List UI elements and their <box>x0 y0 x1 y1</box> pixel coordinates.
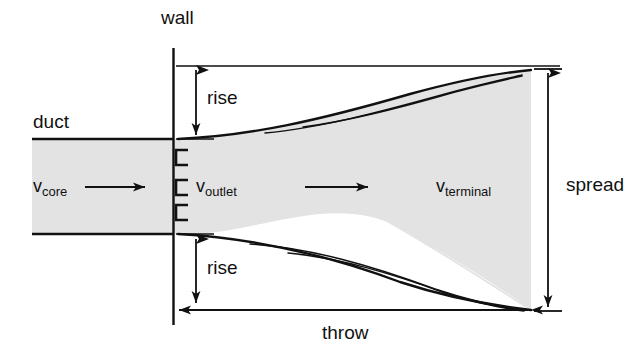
label-v-core: vcore <box>33 177 67 195</box>
v-core-symbol: v <box>33 176 42 196</box>
label-wall: wall <box>161 8 194 27</box>
label-rise-top: rise <box>207 88 238 107</box>
v-outlet-symbol: v <box>196 176 205 196</box>
label-throw: throw <box>322 323 368 342</box>
label-v-outlet: voutlet <box>196 177 237 195</box>
label-duct: duct <box>33 112 69 131</box>
diagram-canvas: wall duct rise rise throw spread vcore v… <box>0 0 642 354</box>
v-terminal-subscript: terminal <box>445 184 491 199</box>
diagram-graphics <box>0 0 642 354</box>
v-outlet-subscript: outlet <box>205 184 237 199</box>
label-v-terminal: vterminal <box>436 177 491 195</box>
v-core-subscript: core <box>42 184 67 199</box>
label-spread: spread <box>566 175 624 194</box>
v-terminal-symbol: v <box>436 176 445 196</box>
label-rise-bottom: rise <box>207 258 238 277</box>
